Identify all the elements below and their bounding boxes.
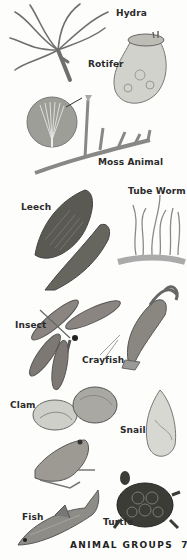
label-leech: Leech xyxy=(21,202,51,212)
frog-illustration xyxy=(35,440,95,489)
label-rotifer: Rotifer xyxy=(88,59,124,69)
page-footer: ANIMAL GROUPS75 xyxy=(70,540,187,550)
animal-illustrations xyxy=(0,0,187,560)
tube-worm-illustration xyxy=(118,195,185,262)
book-page: Hydra Rotifer Moss Animal Leech Tube Wor… xyxy=(0,0,187,560)
footer-title: ANIMAL GROUPS xyxy=(70,540,173,550)
clam-illustration xyxy=(33,387,117,430)
page-number: 75 xyxy=(181,540,187,550)
label-tube-worm: Tube Worm xyxy=(128,186,186,196)
label-clam: Clam xyxy=(10,400,36,410)
label-fish: Fish xyxy=(22,512,43,522)
label-insect: Insect xyxy=(15,320,46,330)
label-crayfish: Crayfish xyxy=(82,355,124,365)
label-snail: Snail xyxy=(120,425,146,435)
label-moss-animal: Moss Animal xyxy=(98,157,163,167)
snail-illustration xyxy=(146,390,175,456)
label-turtle: Turtle xyxy=(103,517,133,527)
insect-illustration xyxy=(25,295,123,390)
label-hydra: Hydra xyxy=(116,8,147,18)
